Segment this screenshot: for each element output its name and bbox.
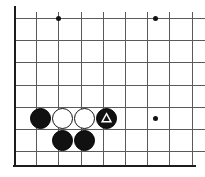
star-point-top-right <box>153 16 158 21</box>
grid-line-horizontal-6 <box>14 151 205 152</box>
grid-line-vertical-5 <box>125 12 126 165</box>
board-edge-bottom <box>13 165 196 167</box>
white-stone-left <box>52 108 73 129</box>
star-point-right <box>153 116 158 121</box>
white-stone-right <box>74 108 95 129</box>
grid-line-horizontal-0 <box>14 18 205 19</box>
star-point-top-left <box>56 16 61 21</box>
black-stone-marked <box>96 108 117 129</box>
board-surface <box>0 0 205 177</box>
black-stone-below-right <box>74 130 95 151</box>
grid-line-vertical-6 <box>147 12 148 165</box>
grid-line-horizontal-2 <box>14 62 205 63</box>
grid-line-horizontal-3 <box>14 85 205 86</box>
triangle-marker-icon <box>97 109 116 128</box>
board-edge-left <box>14 6 16 167</box>
grid-line-vertical-1 <box>36 12 37 165</box>
black-stone-below-left <box>52 130 73 151</box>
grid-line-horizontal-5 <box>14 129 205 130</box>
black-stone-left <box>30 108 51 129</box>
go-board-diagram <box>0 0 205 177</box>
grid-line-vertical-7 <box>169 12 170 165</box>
grid-line-vertical-4 <box>103 12 104 165</box>
grid-line-horizontal-1 <box>14 40 205 41</box>
grid-line-vertical-8 <box>192 12 193 165</box>
